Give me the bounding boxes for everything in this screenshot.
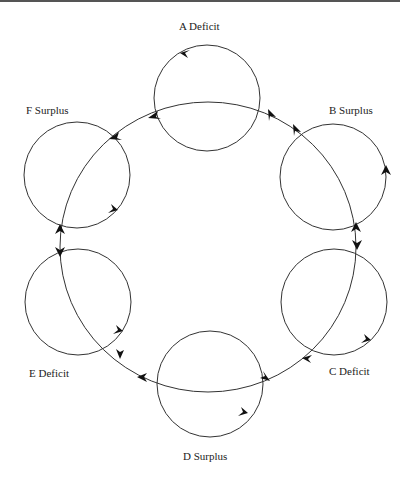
arrow-icon — [268, 109, 276, 121]
circle-c — [281, 249, 387, 355]
arrow-icon — [108, 204, 118, 213]
arrow-icon — [116, 349, 124, 359]
arrow-icon — [238, 407, 248, 416]
arrow-icon — [351, 222, 361, 232]
label-f: F Surplus — [26, 104, 69, 116]
arrow-icon — [302, 355, 312, 363]
circle-b — [280, 124, 386, 230]
arrow-icon — [137, 373, 147, 382]
arrow-icon — [352, 240, 362, 250]
cycle-diagram — [0, 0, 408, 483]
label-a: A Deficit — [179, 20, 220, 32]
label-c: C Deficit — [329, 365, 370, 377]
arrow-icon — [55, 224, 65, 234]
label-e: E Deficit — [29, 367, 69, 379]
label-b: B Surplus — [329, 104, 373, 116]
label-d: D Surplus — [183, 450, 227, 462]
arrow-icon — [293, 124, 301, 136]
circle-e — [25, 249, 131, 355]
circle-a — [154, 45, 260, 151]
circle-d — [157, 331, 263, 437]
